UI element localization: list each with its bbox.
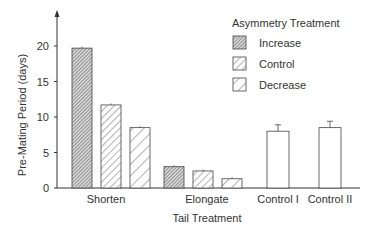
bar-decrease [130,128,150,188]
axes: 05101520Pre-Mating Period (days) [16,10,360,194]
legend-swatch-increase [233,36,246,49]
bar-increase [72,48,92,188]
legend-label-increase: Increase [259,37,301,49]
category-label: Control I [257,193,299,205]
y-tick-label: 0 [43,182,49,194]
bars [72,47,341,188]
y-tick-label: 15 [37,76,49,88]
legend-swatch-control [233,57,246,70]
bar-chart: 05101520Pre-Mating Period (days) Shorten… [0,0,371,233]
bar-control [193,171,213,188]
y-tick-label: 5 [43,147,49,159]
legend: Asymmetry TreatmentIncreaseControlDecrea… [232,17,340,91]
bar-control-i [267,131,289,188]
category-label: Elongate [185,193,228,205]
category-label: Shorten [87,193,126,205]
y-tick-label: 10 [37,111,49,123]
legend-label-decrease: Decrease [259,79,306,91]
bar-decrease [222,179,242,188]
legend-swatch-decrease [233,78,246,91]
y-axis-label: Pre-Mating Period (days) [16,54,28,176]
y-tick-label: 20 [37,40,49,52]
bar-control [101,105,121,188]
x-axis-label: Tail Treatment [172,212,241,224]
legend-label-control: Control [259,58,294,70]
bar-increase [164,167,184,188]
bar-control-ii [319,128,341,188]
legend-title: Asymmetry Treatment [232,17,340,29]
y-axis-arrow-icon [55,10,60,17]
labels: ShortenElongateControl IControl IITail T… [87,193,353,224]
category-label: Control II [308,193,353,205]
